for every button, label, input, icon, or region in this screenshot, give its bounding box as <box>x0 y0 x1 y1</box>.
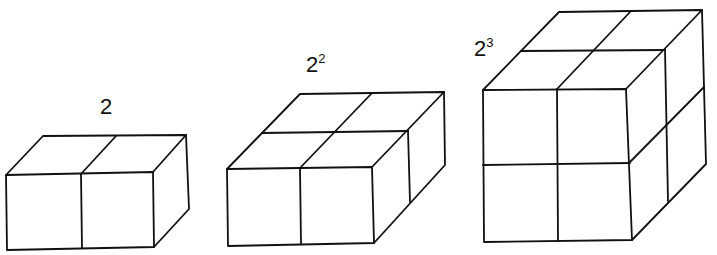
cube-2-cubed-label: 23 <box>474 38 493 60</box>
cube-2-squared-drawing <box>227 92 445 246</box>
cube-2-squared-label: 22 <box>306 54 325 76</box>
label-base: 2 <box>100 94 112 119</box>
cube-2-drawing <box>6 135 189 250</box>
label-base: 2 <box>474 36 486 61</box>
cube-2-cubed-drawing <box>483 10 706 242</box>
cube-2-label: 2 <box>100 96 112 118</box>
cubes-drawing <box>0 0 717 255</box>
label-exponent: 3 <box>486 35 493 50</box>
label-exponent: 2 <box>318 51 325 66</box>
label-base: 2 <box>306 52 318 77</box>
